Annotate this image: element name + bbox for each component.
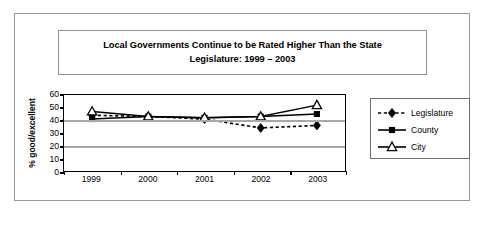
y-tick-label: 10 xyxy=(49,155,59,164)
y-axis-tick-labels: 0102030405060 xyxy=(39,94,59,172)
legend-item-legislature[interactable]: Legislature xyxy=(377,104,469,121)
gridline xyxy=(64,146,345,148)
legend-swatch xyxy=(377,106,407,120)
chart-title-line-1: Local Governments Continue to be Rated H… xyxy=(103,40,382,50)
x-axis-tick-labels: 19992000200120022003 xyxy=(63,174,346,188)
legend-label: County xyxy=(411,125,438,135)
data-point-marker xyxy=(314,111,320,117)
y-tick-mark xyxy=(60,107,64,108)
y-axis-label: % good/excellent xyxy=(25,94,39,172)
data-point-marker xyxy=(389,126,395,132)
x-tick-label: 2000 xyxy=(138,174,157,184)
data-point-marker xyxy=(312,100,321,108)
y-tick-mark xyxy=(60,159,64,160)
y-axis-label-text: % good/excellent xyxy=(27,98,37,167)
legend-item-county[interactable]: County xyxy=(377,121,469,138)
data-point-marker xyxy=(257,123,264,132)
x-tick-label: 2003 xyxy=(308,174,327,184)
legend-label: Legislature xyxy=(411,108,453,118)
x-tick-label: 2001 xyxy=(195,174,214,184)
legend-swatch xyxy=(377,140,407,154)
y-tick-label: 30 xyxy=(49,129,59,138)
y-tick-mark xyxy=(60,94,64,95)
y-tick-label: 40 xyxy=(49,116,59,125)
data-point-marker xyxy=(87,107,96,115)
chart-title-box: Local Governments Continue to be Rated H… xyxy=(58,30,427,75)
legend-swatch xyxy=(377,123,407,137)
chart-legend: LegislatureCountyCity xyxy=(370,98,470,159)
data-point-marker xyxy=(388,108,395,117)
y-tick-label: 60 xyxy=(49,90,59,99)
gridline xyxy=(64,120,345,122)
series-layer xyxy=(64,95,345,171)
y-tick-label: 20 xyxy=(49,142,59,151)
plot-area: % good/excellent 0102030405060 199920002… xyxy=(27,94,357,190)
y-tick-mark xyxy=(60,133,64,134)
legend-item-city[interactable]: City xyxy=(377,138,469,155)
data-point-marker xyxy=(313,121,320,130)
chart-title-line-2: Legislature: 1999 – 2003 xyxy=(190,54,296,64)
y-tick-label: 0 xyxy=(54,168,59,177)
x-tick-label: 1999 xyxy=(82,174,101,184)
axes-box xyxy=(63,94,346,172)
figure-frame: Local Governments Continue to be Rated H… xyxy=(14,13,470,201)
chart-title: Local Governments Continue to be Rated H… xyxy=(97,39,388,66)
y-tick-label: 50 xyxy=(49,103,59,112)
x-tick-label: 2002 xyxy=(252,174,271,184)
legend-label: City xyxy=(411,142,426,152)
